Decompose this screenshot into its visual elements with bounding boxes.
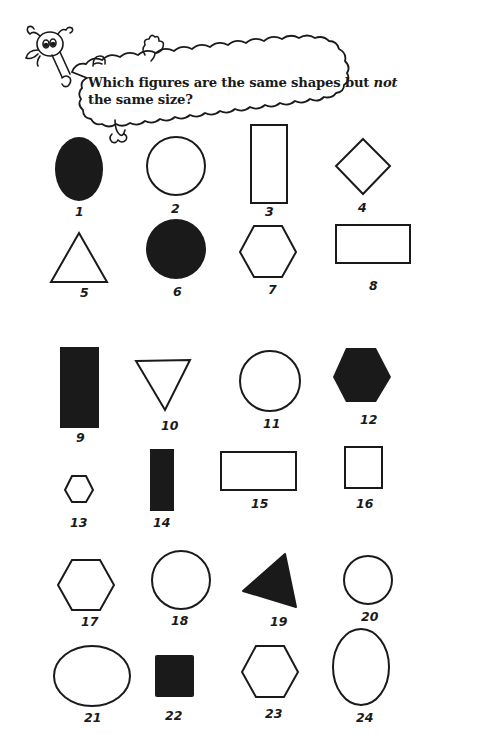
figure-4-label: 4: [357, 200, 367, 215]
figure-20-shape: [344, 556, 392, 604]
figure-10-label: 10: [161, 418, 179, 433]
figure-15-label: 15: [251, 496, 269, 511]
figure-17-label: 17: [81, 614, 99, 629]
figure-14-shape: [150, 449, 174, 511]
question-emphasis: not: [374, 75, 398, 90]
figure-15-shape: [221, 452, 296, 490]
worksheet-canvas: 1 2 3 4 5 6 7 8 9 10 11 12 13 14 15 16 1…: [0, 0, 487, 735]
figure-16-label: 16: [356, 496, 374, 511]
figure-11-label: 11: [263, 416, 280, 431]
figure-8-shape: [336, 225, 410, 263]
figure-19-label: 19: [270, 614, 288, 629]
figure-18-shape: [152, 551, 210, 609]
figure-9-shape: [60, 347, 99, 428]
figure-7-label: 7: [268, 282, 277, 297]
figure-23-label: 23: [265, 706, 282, 721]
figure-19-shape: [243, 554, 296, 607]
figure-2-label: 2: [171, 201, 180, 216]
figure-13-shape: [65, 476, 93, 502]
figure-5-shape: [51, 233, 107, 282]
figure-3-shape: [251, 125, 287, 203]
figure-16-shape: [345, 447, 382, 488]
figure-21-shape: [54, 646, 130, 706]
question-text: Which figures are the same shapes but no…: [88, 74, 418, 108]
figure-20-label: 20: [361, 609, 379, 624]
figure-23-shape: [242, 646, 298, 697]
figure-8-label: 8: [369, 278, 378, 293]
figure-17-shape: [58, 560, 114, 610]
figure-9-label: 9: [76, 430, 85, 445]
figure-21-label: 21: [84, 710, 101, 725]
figure-6-shape: [146, 219, 206, 279]
figure-5-label: 5: [80, 285, 89, 300]
question-part-1: Which figures are the same shapes but: [88, 75, 374, 90]
figure-7-shape: [240, 226, 296, 277]
figure-3-label: 3: [265, 204, 274, 219]
figure-10-shape: [136, 360, 190, 410]
figure-2-shape: [147, 137, 205, 195]
figure-6-label: 6: [173, 284, 182, 299]
figure-12-label: 12: [360, 412, 377, 427]
figure-1-label: 1: [75, 204, 84, 219]
figure-22-shape: [155, 655, 194, 697]
figure-18-label: 18: [171, 613, 189, 628]
question-part-2: the same size?: [88, 92, 193, 107]
figure-22-label: 22: [165, 708, 182, 723]
figure-4-shape: [336, 139, 390, 194]
figure-24-label: 24: [356, 710, 373, 725]
figure-11-shape: [240, 351, 300, 411]
figure-14-label: 14: [153, 515, 170, 530]
figure-1-shape: [55, 137, 103, 201]
figure-12-shape: [333, 348, 391, 402]
figure-24-shape: [333, 629, 389, 705]
figure-13-label: 13: [70, 515, 87, 530]
